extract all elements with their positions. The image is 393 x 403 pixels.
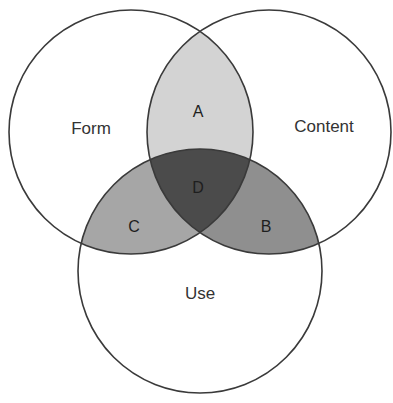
- set-label-content: Content: [294, 117, 354, 136]
- region-label-a: A: [193, 103, 204, 120]
- region-label-c: C: [128, 218, 140, 235]
- venn-diagram: Form Content Use A B C D: [0, 0, 393, 403]
- set-label-form: Form: [71, 119, 111, 138]
- region-label-b: B: [261, 218, 272, 235]
- set-label-use: Use: [185, 284, 215, 303]
- region-label-d: D: [192, 179, 204, 196]
